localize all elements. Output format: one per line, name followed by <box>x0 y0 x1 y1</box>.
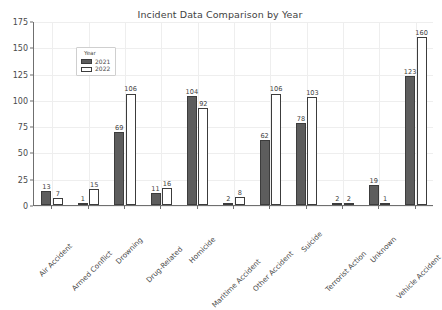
bar-group: 1116 <box>151 22 173 205</box>
bar-value-label: 8 <box>238 190 242 197</box>
x-tick-mark <box>160 206 161 209</box>
x-tick-mark <box>378 206 379 209</box>
plot-area: 1371156910611161049228621067810322191123… <box>33 22 433 206</box>
x-tick-label: Air Accident <box>37 242 74 279</box>
x-tick-label: Terrorist Action <box>324 249 368 293</box>
y-axis: 0255075100125150175 <box>0 22 33 206</box>
bar-group: 69106 <box>114 22 136 205</box>
bar-value-label: 160 <box>415 30 428 37</box>
bar-value-label: 15 <box>90 182 98 189</box>
bar-value-label: 2 <box>226 196 230 203</box>
bar-2022[interactable]: 106 <box>126 94 136 205</box>
bar-2021[interactable]: 11 <box>151 193 161 205</box>
bar-value-label: 19 <box>370 178 378 185</box>
y-tick-label: 25 <box>18 175 28 184</box>
y-tick-label: 0 <box>23 202 28 211</box>
bar-value-label: 62 <box>260 133 268 140</box>
x-tick-label: Suicide <box>299 229 324 254</box>
x-tick-mark <box>51 206 52 209</box>
bar-value-label: 103 <box>306 90 319 97</box>
bar-group: 22 <box>332 22 354 205</box>
x-tick-label: Drowning <box>114 235 145 266</box>
bar-value-label: 7 <box>56 191 60 198</box>
x-axis: Air AccidentArmed ConflictDrowningDrug-R… <box>33 206 433 273</box>
x-tick-label: Homicide <box>187 235 217 265</box>
bar-2022[interactable]: 2 <box>344 203 354 205</box>
bar-2022[interactable]: 160 <box>417 37 427 205</box>
bar-2021[interactable]: 69 <box>114 132 124 205</box>
bar-2022[interactable]: 92 <box>198 108 208 205</box>
bar-value-label: 2 <box>347 196 351 203</box>
bar-value-label: 92 <box>199 101 207 108</box>
bar-value-label: 16 <box>163 181 171 188</box>
x-tick-label: Armed Conflict <box>69 249 113 293</box>
bar-value-label: 1 <box>383 196 387 203</box>
y-tick-label: 175 <box>13 18 28 27</box>
bar-2021[interactable]: 2 <box>223 203 233 205</box>
bar-value-label: 13 <box>42 184 50 191</box>
y-tick-label: 100 <box>13 96 28 105</box>
legend-swatch-2022 <box>81 67 92 72</box>
x-tick-mark <box>197 206 198 209</box>
bar-value-label: 106 <box>270 86 283 93</box>
x-tick-label: Other Accident <box>251 249 295 293</box>
y-tick-label: 150 <box>13 44 28 53</box>
chart-title: Incident Data Comparison by Year <box>0 9 440 20</box>
x-tick-mark <box>306 206 307 209</box>
x-tick-label: Unknown <box>369 235 399 265</box>
bar-2021[interactable]: 104 <box>187 96 197 205</box>
x-tick-mark <box>124 206 125 209</box>
bar-value-label: 78 <box>297 116 305 123</box>
bar-2021[interactable]: 13 <box>41 191 51 205</box>
bar-group: 62106 <box>260 22 282 205</box>
x-tick-label: Vehicle Accident <box>394 253 442 301</box>
bar-2021[interactable]: 1 <box>78 203 88 205</box>
x-tick-label: Drug-Related <box>145 245 185 285</box>
y-tick-label: 50 <box>18 149 28 158</box>
bar-value-label: 123 <box>404 69 417 76</box>
legend-label-2022: 2022 <box>95 66 110 72</box>
legend-item-2022[interactable]: 2022 <box>81 66 110 72</box>
bar-2022[interactable]: 16 <box>162 188 172 205</box>
bar-group: 10492 <box>187 22 209 205</box>
bar-2021[interactable]: 62 <box>260 140 270 205</box>
legend-title: Year <box>84 51 110 57</box>
bar-2021[interactable]: 2 <box>332 203 342 205</box>
bar-2022[interactable]: 1 <box>380 203 390 205</box>
bar-2022[interactable]: 15 <box>89 189 99 205</box>
bar-2022[interactable]: 106 <box>271 94 281 205</box>
bar-group: 137 <box>41 22 63 205</box>
bar-value-label: 2 <box>335 196 339 203</box>
bar-value-label: 104 <box>186 89 199 96</box>
bar-group: 78103 <box>296 22 318 205</box>
bar-value-label: 106 <box>124 86 137 93</box>
bar-2022[interactable]: 103 <box>307 97 317 205</box>
x-tick-mark <box>415 206 416 209</box>
bar-value-label: 69 <box>115 125 123 132</box>
legend-swatch-2021 <box>81 59 92 64</box>
x-tick-mark <box>88 206 89 209</box>
bar-2021[interactable]: 123 <box>405 76 415 205</box>
legend: Year 2021 2022 <box>76 47 116 76</box>
bar-value-label: 1 <box>81 196 85 203</box>
bar-2021[interactable]: 78 <box>296 123 306 205</box>
y-tick-label: 125 <box>13 70 28 79</box>
bar-value-label: 11 <box>151 186 159 193</box>
x-tick-mark <box>269 206 270 209</box>
legend-item-2021[interactable]: 2021 <box>81 59 110 65</box>
y-tick-label: 75 <box>18 123 28 132</box>
bar-group: 123160 <box>405 22 427 205</box>
legend-label-2021: 2021 <box>95 59 110 65</box>
bar-2022[interactable]: 7 <box>53 198 63 205</box>
x-tick-mark <box>342 206 343 209</box>
x-tick-mark <box>233 206 234 209</box>
bar-2021[interactable]: 19 <box>369 185 379 205</box>
bar-group: 28 <box>223 22 245 205</box>
bar-group: 191 <box>369 22 391 205</box>
bar-2022[interactable]: 8 <box>235 197 245 205</box>
